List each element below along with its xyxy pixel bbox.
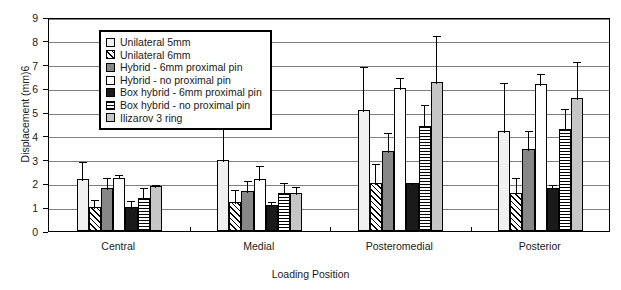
x-axis-category-label: Central <box>48 240 189 252</box>
legend-item-label: Unilateral 6mm <box>120 50 191 61</box>
error-bar-cap <box>433 36 441 37</box>
error-bar <box>363 67 364 112</box>
y-axis-tick <box>43 113 48 114</box>
error-bar <box>143 188 144 200</box>
legend-item-label: Unilateral 5mm <box>120 37 191 48</box>
y-axis-tick <box>43 18 48 19</box>
y-axis-tick <box>43 208 48 209</box>
y-axis-tick <box>43 65 48 66</box>
legend-item: Box hybrid - 6mm proximal pin <box>106 86 262 99</box>
error-bar-cap <box>561 109 569 110</box>
error-bar-cap <box>152 185 160 186</box>
gridline <box>49 137 609 138</box>
error-bar-cap <box>268 202 276 203</box>
legend-item-label: Box hybrid - no proximal pin <box>120 100 250 111</box>
x-axis-group-separator <box>471 227 472 231</box>
x-axis-category-label: Posterior <box>470 240 611 252</box>
legend-swatch-icon <box>106 76 115 85</box>
y-axis-tick-label: 0 <box>18 226 38 238</box>
error-bar <box>565 109 566 130</box>
bar-chart: Displacement (mm)6 0123456789 CentralMed… <box>0 0 621 290</box>
legend-swatch-icon <box>106 63 115 72</box>
bar <box>217 160 229 231</box>
error-bar <box>424 105 425 129</box>
error-bar-cap <box>372 164 380 165</box>
legend-item-label: Box hybrid - 6mm proximal pin <box>120 87 262 98</box>
legend-item-label: Hybrid - 6mm proximal pin <box>120 62 243 73</box>
y-axis-tick-label: 7 <box>18 60 38 72</box>
error-bar-cap <box>384 133 392 134</box>
error-bar-cap <box>421 105 429 106</box>
error-bar-cap <box>79 162 87 163</box>
legend-swatch-icon <box>106 50 115 59</box>
y-axis-tick <box>43 184 48 185</box>
bar <box>394 88 406 231</box>
x-axis-category-label: Posteromedial <box>329 240 470 252</box>
bar <box>290 193 302 231</box>
error-bar <box>375 164 376 185</box>
error-bar-cap <box>360 67 368 68</box>
bar <box>498 131 510 231</box>
legend-swatch-icon <box>106 88 115 97</box>
error-bar-cap <box>280 183 288 184</box>
error-bar-cap <box>512 178 520 179</box>
error-bar <box>388 133 389 153</box>
error-bar <box>436 36 437 85</box>
error-bar <box>577 62 578 100</box>
error-bar <box>528 131 529 151</box>
legend-item: Box hybrid - no proximal pin <box>106 99 262 112</box>
legend-item-label: Ilizarov 3 ring <box>120 113 182 124</box>
error-bar <box>247 181 248 193</box>
legend-item: Unilateral 6mm <box>106 49 262 62</box>
gridline <box>49 19 609 20</box>
error-bar <box>131 201 132 209</box>
bar <box>370 183 382 231</box>
error-bar-cap <box>115 175 123 176</box>
error-bar-cap <box>127 201 135 202</box>
bar <box>266 205 278 231</box>
x-axis-group-separator <box>190 227 191 231</box>
bar <box>510 193 522 231</box>
bar <box>522 149 534 231</box>
bar <box>559 129 571 231</box>
error-bar <box>296 187 297 195</box>
y-axis-tick-label: 1 <box>18 202 38 214</box>
error-bar <box>94 200 95 210</box>
bar <box>406 183 418 231</box>
error-bar <box>516 178 517 195</box>
legend-item: Ilizarov 3 ring <box>106 112 262 125</box>
y-axis-tick-label: 9 <box>18 12 38 24</box>
y-axis-tick-label: 5 <box>18 107 38 119</box>
x-axis-category-label: Medial <box>189 240 330 252</box>
legend-item: Hybrid - no proximal pin <box>106 74 262 87</box>
legend-item-label: Hybrid - no proximal pin <box>120 75 231 86</box>
error-bar-cap <box>525 131 533 132</box>
bar <box>547 188 559 231</box>
error-bar <box>259 166 260 180</box>
y-axis-tick <box>43 136 48 137</box>
y-axis-tick-label: 4 <box>18 131 38 143</box>
error-bar-cap <box>408 183 416 184</box>
y-axis-tick-label: 2 <box>18 178 38 190</box>
bar <box>138 198 150 231</box>
legend-swatch-icon <box>106 101 115 110</box>
bar <box>241 191 253 231</box>
y-axis-tick <box>43 232 48 233</box>
error-bar <box>400 78 401 90</box>
error-bar <box>504 83 505 133</box>
error-bar <box>235 190 236 204</box>
error-bar-cap <box>256 166 264 167</box>
legend: Unilateral 5mmUnilateral 6mmHybrid - 6mm… <box>99 30 272 130</box>
legend-item: Hybrid - 6mm proximal pin <box>106 61 262 74</box>
y-axis-tick-label: 6 <box>18 83 38 95</box>
x-axis-group-separator <box>330 227 331 231</box>
legend-swatch-icon <box>106 113 115 122</box>
error-bar-cap <box>140 188 148 189</box>
y-axis-tick-label: 8 <box>18 36 38 48</box>
bar <box>150 186 162 231</box>
error-bar-cap <box>573 62 581 63</box>
y-axis-tick <box>43 89 48 90</box>
bar <box>229 202 241 231</box>
error-bar-cap <box>231 190 239 191</box>
error-bar <box>540 74 541 86</box>
